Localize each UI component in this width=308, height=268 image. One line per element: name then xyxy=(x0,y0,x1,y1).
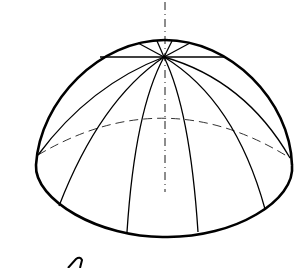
hemisphere-diagram xyxy=(0,0,308,268)
hidden-equator-arc xyxy=(38,118,290,158)
pencil-mark xyxy=(68,258,82,268)
dome-outline xyxy=(36,40,292,165)
